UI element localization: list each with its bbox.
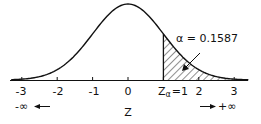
tick-label-neg2: -2 bbox=[53, 85, 64, 98]
x-axis-title: Z bbox=[124, 106, 132, 119]
tick-label-3: 3 bbox=[231, 85, 238, 98]
pos-infinity-label: +∞ bbox=[218, 100, 236, 113]
tick-label-neg1: -1 bbox=[89, 85, 100, 98]
neg-infinity-label: -∞ bbox=[15, 100, 28, 113]
tick-label-neg3: -3 bbox=[16, 85, 27, 98]
right-arrow-icon bbox=[200, 104, 216, 109]
tick-label-0: 0 bbox=[125, 85, 132, 98]
normal-distribution-chart: -3 -2 -1 0 Zα=1 2 3 -∞ +∞ Z α = 0.1587 bbox=[0, 0, 261, 124]
left-arrow-icon bbox=[34, 104, 50, 109]
tick-label-z-alpha: Zα=1 bbox=[158, 85, 188, 99]
alpha-annotation: α = 0.1587 bbox=[176, 32, 238, 45]
tick-label-2: 2 bbox=[196, 85, 203, 98]
